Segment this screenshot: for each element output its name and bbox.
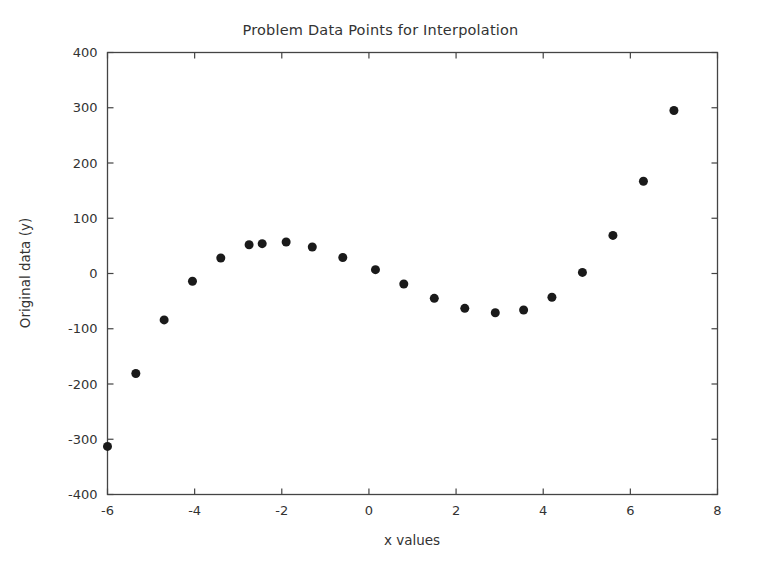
y-tick-label: 0 <box>89 266 97 281</box>
x-axis-label: x values <box>384 532 440 548</box>
data-point <box>308 242 317 251</box>
data-point <box>245 240 254 249</box>
scatter-plot: -400-300-200-1000100200300400-6-4-202468… <box>0 0 761 574</box>
y-tick-label: -300 <box>68 432 98 447</box>
data-point <box>519 305 528 314</box>
x-tick-label: -2 <box>275 503 288 518</box>
data-point <box>103 442 112 451</box>
tick-marks-group <box>108 53 718 495</box>
data-point <box>131 369 140 378</box>
y-tick-label: 300 <box>73 100 98 115</box>
data-point <box>578 268 587 277</box>
axes-frame <box>108 53 718 495</box>
y-tick-label: 100 <box>73 211 98 226</box>
y-tick-label: 200 <box>73 156 98 171</box>
chart-figure: Problem Data Points for Interpolation -4… <box>0 0 761 574</box>
data-point <box>547 293 556 302</box>
data-point <box>608 231 617 240</box>
data-point <box>188 277 197 286</box>
y-tick-label: -100 <box>68 321 98 336</box>
data-point <box>399 279 408 288</box>
data-point <box>216 254 225 263</box>
data-point <box>639 177 648 186</box>
x-tick-label: 8 <box>713 503 721 518</box>
data-point <box>491 308 500 317</box>
x-tick-label: 6 <box>626 503 634 518</box>
x-tick-label: 0 <box>365 503 373 518</box>
data-point <box>338 253 347 262</box>
data-point <box>430 294 439 303</box>
y-tick-label: -400 <box>68 487 98 502</box>
data-point <box>669 106 678 115</box>
x-tick-label: 4 <box>539 503 547 518</box>
data-point <box>282 238 291 247</box>
data-point <box>258 239 267 248</box>
y-tick-label: 400 <box>73 45 98 60</box>
data-point <box>160 315 169 324</box>
data-points-group <box>103 106 678 451</box>
x-tick-label: 2 <box>452 503 460 518</box>
data-point <box>371 265 380 274</box>
y-tick-label: -200 <box>68 377 98 392</box>
tick-labels-group: -400-300-200-1000100200300400-6-4-202468 <box>68 45 722 518</box>
x-tick-label: -6 <box>101 503 114 518</box>
x-tick-label: -4 <box>188 503 201 518</box>
data-point <box>460 304 469 313</box>
y-axis-label: Original data (y) <box>17 218 33 328</box>
